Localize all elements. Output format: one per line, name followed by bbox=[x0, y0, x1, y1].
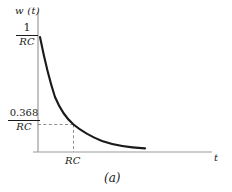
y-tick-max-numerator: 1 bbox=[16, 22, 38, 35]
y-tick-tau-numerator: 0.368 bbox=[8, 108, 40, 120]
exponential-decay-curve bbox=[40, 37, 145, 148]
x-tick-label-rc: RC bbox=[65, 156, 81, 166]
x-axis-variable-label: t bbox=[214, 153, 218, 163]
y-axis-function-label: w (t) bbox=[15, 6, 40, 16]
y-tick-label-tau: 0.368 RC bbox=[8, 108, 40, 132]
y-tick-max-denominator: RC bbox=[16, 37, 38, 48]
y-tick-tau-denominator: RC bbox=[8, 122, 40, 133]
y-tick-label-max: 1 RC bbox=[16, 22, 38, 47]
figure-container: w (t) 1 RC 0.368 RC RC t (a) bbox=[0, 0, 232, 192]
figure-caption: (a) bbox=[104, 172, 121, 184]
